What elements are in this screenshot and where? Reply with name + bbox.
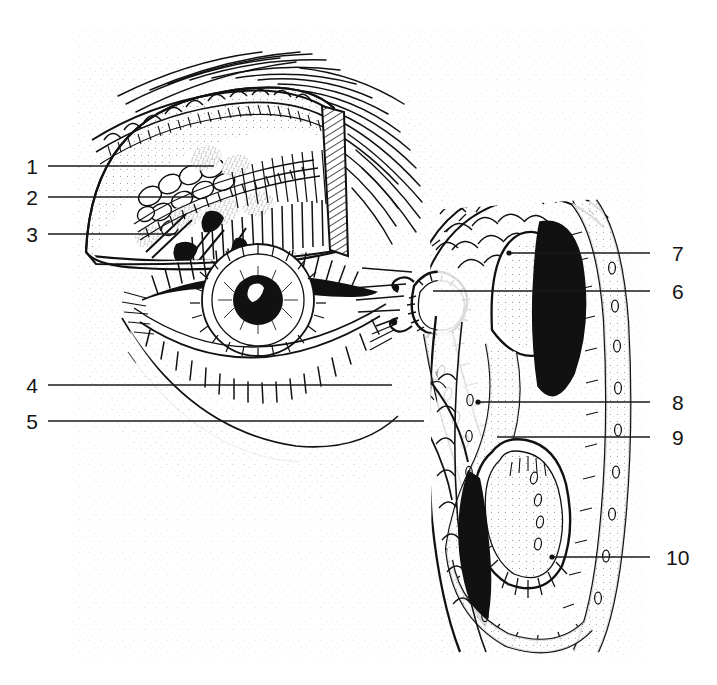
label-5: 5 (14, 411, 38, 432)
label-7: 7 (672, 243, 708, 264)
label-10: 10 (666, 547, 708, 568)
label-6: 6 (672, 281, 708, 302)
label-8: 8 (672, 392, 708, 413)
lacrimal-apparatus-figure (0, 0, 717, 685)
label-3: 3 (14, 224, 38, 245)
label-2: 2 (14, 187, 38, 208)
label-4: 4 (14, 375, 38, 396)
label-9: 9 (672, 427, 708, 448)
label-1: 1 (14, 156, 38, 177)
